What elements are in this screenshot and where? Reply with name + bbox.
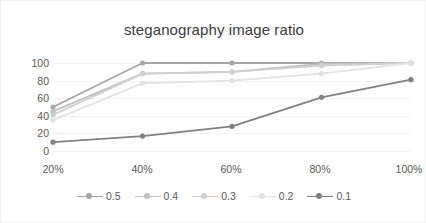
data-point (50, 140, 55, 145)
data-point (408, 77, 413, 82)
data-point (408, 60, 413, 65)
series-layer (53, 63, 411, 151)
legend-label: 0.3 (221, 191, 236, 202)
y-axis-tick-label: 20 (15, 128, 49, 139)
y-axis-tick-label: 40 (15, 111, 49, 122)
legend-swatch-icon (192, 191, 218, 201)
legend-label: 0.5 (106, 191, 121, 202)
gridline (53, 151, 411, 152)
legend-item-0.3[interactable]: 0.3 (192, 191, 236, 202)
data-point (140, 133, 145, 138)
data-point (140, 71, 145, 76)
legend-swatch-icon (135, 191, 161, 201)
data-point (319, 63, 324, 68)
legend-swatch-icon (250, 191, 276, 201)
legend-item-0.1[interactable]: 0.1 (307, 191, 351, 202)
data-point (319, 95, 324, 100)
chart-title: steganography image ratio (1, 21, 426, 38)
data-point (50, 112, 55, 117)
legend-item-0.5[interactable]: 0.5 (77, 191, 121, 202)
plot-area (53, 63, 411, 151)
x-axis-tick-label: 60% (220, 164, 241, 175)
data-point (229, 124, 234, 129)
y-axis-tick-label: 100 (15, 58, 49, 69)
chart-legend: 0.50.40.30.20.1 (1, 191, 426, 202)
data-point (140, 60, 145, 65)
y-axis: 020406080100 (15, 51, 49, 161)
y-axis-tick-label: 80 (15, 75, 49, 86)
series-0.5 (50, 60, 413, 109)
data-point (50, 118, 55, 123)
x-axis-tick-label: 100% (396, 164, 423, 175)
x-axis: 20%40%60%80%100% (53, 164, 409, 180)
legend-label: 0.4 (164, 191, 179, 202)
legend-swatch-icon (77, 191, 103, 201)
data-point (229, 60, 234, 65)
x-axis-tick-label: 80% (309, 164, 330, 175)
chart-card: steganography image ratio 020406080100 2… (0, 0, 426, 223)
series-0.1 (50, 77, 413, 145)
legend-label: 0.2 (279, 191, 294, 202)
data-point (229, 69, 234, 74)
y-axis-tick-label: 60 (15, 93, 49, 104)
x-axis-tick-label: 40% (131, 164, 152, 175)
y-axis-tick-label: 0 (15, 146, 49, 157)
data-point (140, 81, 145, 86)
legend-swatch-icon (307, 191, 333, 201)
x-axis-tick-label: 20% (42, 164, 63, 175)
legend-item-0.2[interactable]: 0.2 (250, 191, 294, 202)
legend-label: 0.1 (336, 191, 351, 202)
plot-region: 020406080100 (1, 51, 426, 161)
data-point (229, 78, 234, 83)
data-point (319, 71, 324, 76)
legend-item-0.4[interactable]: 0.4 (135, 191, 179, 202)
